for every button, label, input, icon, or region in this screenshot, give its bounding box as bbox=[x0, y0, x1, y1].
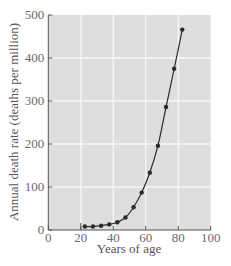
data-point bbox=[180, 27, 184, 31]
data-point bbox=[83, 224, 87, 228]
data-point bbox=[148, 171, 152, 175]
x-tick-label: 20 bbox=[74, 230, 87, 245]
x-tick-label: 0 bbox=[45, 230, 52, 245]
x-tick-label: 80 bbox=[172, 230, 185, 245]
y-tick-label: 400 bbox=[25, 50, 45, 65]
x-axis-label: Years of age bbox=[97, 241, 162, 256]
data-point bbox=[156, 144, 160, 148]
plot-area bbox=[48, 15, 210, 230]
data-point bbox=[91, 224, 95, 228]
data-point bbox=[172, 67, 176, 71]
data-point bbox=[131, 205, 135, 209]
x-tick-label: 100 bbox=[201, 230, 221, 245]
line-chart: 020406080100 0100200300400500 Years of a… bbox=[0, 0, 231, 266]
y-tick-label: 100 bbox=[25, 179, 45, 194]
data-point bbox=[139, 190, 143, 194]
y-tick-label: 300 bbox=[25, 93, 45, 108]
data-point bbox=[123, 215, 127, 219]
y-tick-label: 0 bbox=[38, 222, 45, 237]
data-point bbox=[99, 224, 103, 228]
y-axis-label: Annual death rate (deaths per million) bbox=[6, 23, 21, 221]
data-point bbox=[107, 222, 111, 226]
y-tick-label: 500 bbox=[25, 7, 45, 22]
data-point bbox=[115, 220, 119, 224]
data-point bbox=[164, 105, 168, 109]
y-tick-label: 200 bbox=[25, 136, 45, 151]
